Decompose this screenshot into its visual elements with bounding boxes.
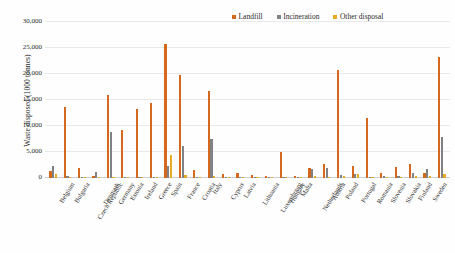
bar-other-disposal (256, 177, 258, 178)
bar-other-disposal (228, 177, 230, 178)
y-axis-tick-label: 15,000 (23, 95, 42, 103)
bar-other-disposal (400, 177, 402, 178)
x-axis-label-slot: Hungary (276, 180, 290, 250)
x-axis-label-slot: Spain (161, 180, 175, 250)
x-axis-label-slot: Romania (363, 180, 377, 250)
x-axis-label-slot: Poland (334, 180, 348, 250)
bar-other-disposal (429, 176, 431, 178)
bar-group (305, 22, 319, 178)
bar-group (276, 22, 290, 178)
y-axis-tick-label: 10,000 (23, 121, 42, 129)
bar-other-disposal (156, 177, 158, 178)
x-axis-label-slot: Czech Republic (75, 180, 89, 250)
legend-label: Incineration (283, 12, 319, 21)
bar-group (60, 22, 74, 178)
bar-other-disposal (127, 177, 129, 178)
bar-other-disposal (357, 174, 359, 178)
bar-groups (45, 22, 450, 178)
x-axis-label-slot: Croatia (190, 180, 204, 250)
bar-landfill (337, 70, 339, 178)
bar-group (233, 22, 247, 178)
x-axis-label-slot: Lithuania (247, 180, 261, 250)
bar-group (104, 22, 118, 178)
x-axis-label-slot: Germany (104, 180, 118, 250)
legend-item-landfill: Landfill (232, 12, 263, 21)
y-axis-tick-label: 20,000 (23, 69, 42, 77)
bar-other-disposal (371, 177, 373, 178)
bar-group (334, 22, 348, 178)
chart-legend: LandfillIncinerationOther disposal (232, 12, 383, 21)
y-axis-tick-label: 30,000 (23, 17, 42, 25)
legend-item-incineration: Incineration (277, 12, 320, 21)
bar-landfill (150, 103, 152, 178)
bar-group (319, 22, 333, 178)
y-axis-tick-label: 25,000 (23, 43, 42, 51)
bar-landfill (121, 130, 123, 178)
x-axis-label-slot: Sweden (420, 180, 434, 250)
bar-landfill (164, 44, 166, 178)
bar-group (161, 22, 175, 178)
x-axis-label-slot: Estonia (118, 180, 132, 250)
x-axis-label-slot: United Kingdom (435, 180, 449, 250)
waste-disposal-bar-chart: LandfillIncinerationOther disposal Waste… (0, 0, 455, 253)
bar-group (291, 22, 305, 178)
bar-other-disposal (328, 177, 330, 178)
x-axis-label-slot: Belgium (46, 180, 60, 250)
x-axis-label-slot: Slovakia (391, 180, 405, 250)
x-axis-label-slot: Austria (319, 180, 333, 250)
bar-other-disposal (242, 177, 244, 178)
bar-group (46, 22, 60, 178)
bar-landfill (366, 118, 368, 178)
bar-landfill (64, 107, 66, 178)
bar-group (204, 22, 218, 178)
bar-group (420, 22, 434, 178)
bar-group (363, 22, 377, 178)
bar-other-disposal (415, 176, 417, 178)
x-axis-label-slot: Cyprus (219, 180, 233, 250)
bar-other-disposal (443, 174, 445, 178)
legend-swatch-icon (232, 15, 236, 19)
x-axis-label-slot: Malta (291, 180, 305, 250)
legend-swatch-icon (277, 15, 281, 19)
bar-other-disposal (386, 177, 388, 178)
y-axis-tick-label: 5,000 (26, 147, 42, 155)
bar-group (89, 22, 103, 178)
bar-group (75, 22, 89, 178)
legend-item-other-disposal: Other disposal (333, 12, 383, 21)
bar-landfill (280, 152, 282, 178)
bar-other-disposal (184, 175, 186, 178)
bar-other-disposal (69, 177, 71, 178)
bar-incineration (182, 146, 184, 178)
x-axis-label-slot: France (176, 180, 190, 250)
bar-other-disposal (55, 174, 57, 178)
bar-other-disposal (314, 176, 316, 178)
x-axis-label-slot: Bulgaria (60, 180, 74, 250)
x-axis-label-slot: Denmark (89, 180, 103, 250)
legend-label: Landfill (239, 12, 263, 21)
bar-other-disposal (213, 176, 215, 178)
bar-other-disposal (300, 177, 302, 178)
bar-incineration (441, 137, 443, 178)
bar-group (435, 22, 449, 178)
bar-group (132, 22, 146, 178)
x-axis-label-slot: Finland (406, 180, 420, 250)
bar-other-disposal (84, 177, 86, 178)
x-axis-label-slot: Italy (204, 180, 218, 250)
bar-group (391, 22, 405, 178)
bar-group (219, 22, 233, 178)
bar-other-disposal (343, 176, 345, 178)
bar-group (118, 22, 132, 178)
bar-group (176, 22, 190, 178)
bar-other-disposal (141, 177, 143, 178)
bar-other-disposal (199, 177, 201, 178)
bar-other-disposal (112, 177, 114, 178)
bar-incineration (110, 132, 112, 178)
x-axis-label-slot: Netherlands (305, 180, 319, 250)
bar-other-disposal (271, 177, 273, 178)
bar-group (377, 22, 391, 178)
x-axis-label-slot: Portugal (348, 180, 362, 250)
x-axis-label-slot: Ireland (132, 180, 146, 250)
bar-group (190, 22, 204, 178)
x-axis-label-slot: Greece (147, 180, 161, 250)
bar-other-disposal (170, 155, 172, 178)
